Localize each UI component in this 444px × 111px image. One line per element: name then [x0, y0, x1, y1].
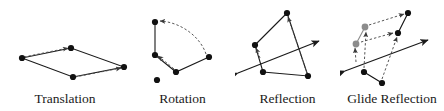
panel-label-reflection: Reflection — [235, 91, 340, 106]
reflection-mirror-line — [238, 41, 319, 73]
vertex-dot — [361, 69, 367, 75]
vertex-dot — [68, 45, 74, 51]
translation-parallelogram — [22, 48, 124, 77]
reflection-vertices — [252, 10, 311, 79]
panel-reflection: Reflection — [235, 0, 340, 111]
rotation-arc — [160, 21, 206, 54]
panel-rotation: Rotation — [130, 0, 235, 111]
vertex-dot — [206, 54, 212, 60]
panel-label-translation: Translation — [0, 91, 130, 106]
shape-edge — [398, 13, 408, 33]
translation-diagram — [0, 0, 130, 92]
vertex-dot — [152, 19, 158, 25]
panel-glide-reflection: Glide Reflection — [340, 0, 444, 111]
translation-vectors — [24, 48, 121, 77]
shape-edge — [364, 72, 382, 83]
rotation-arc — [158, 56, 174, 69]
vertex-dot — [284, 10, 290, 16]
vertex-dot — [19, 55, 25, 61]
vertex-dot — [395, 30, 401, 36]
ghost-vertex-dot — [353, 41, 360, 48]
glide-correspondence-lines — [355, 14, 404, 79]
vertex-dot — [70, 74, 76, 80]
glide-reflection-diagram — [340, 0, 444, 92]
dashed-vector — [355, 48, 356, 62]
dashed-vector — [369, 14, 404, 25]
vertex-dot — [173, 69, 179, 75]
isometry-transformations-figure: Translation Rotation — [0, 0, 444, 111]
panel-translation: Translation — [0, 0, 130, 111]
dashed-vector — [24, 48, 68, 57]
vertex-dot — [305, 73, 311, 79]
ghost-vertex-dot — [362, 24, 369, 31]
vertex-dot — [252, 42, 258, 48]
panel-label-glide-reflection: Glide Reflection — [340, 91, 444, 106]
rotation-pivot-point — [154, 77, 160, 83]
vertex-dot — [260, 69, 266, 75]
vertex-dot — [405, 10, 411, 16]
rotation-diagram — [130, 0, 235, 92]
reflection-quadrilateral — [255, 13, 308, 76]
dashed-vector — [382, 37, 397, 79]
dashed-vector — [364, 32, 366, 68]
vertex-dot — [121, 64, 127, 70]
vertex-dot — [379, 80, 385, 86]
rotation-shape — [155, 22, 209, 72]
reflection-diagram — [235, 0, 340, 92]
reflection-correspondence-lines — [256, 17, 307, 73]
vertex-dot — [152, 52, 158, 58]
panel-label-rotation: Rotation — [130, 91, 235, 106]
